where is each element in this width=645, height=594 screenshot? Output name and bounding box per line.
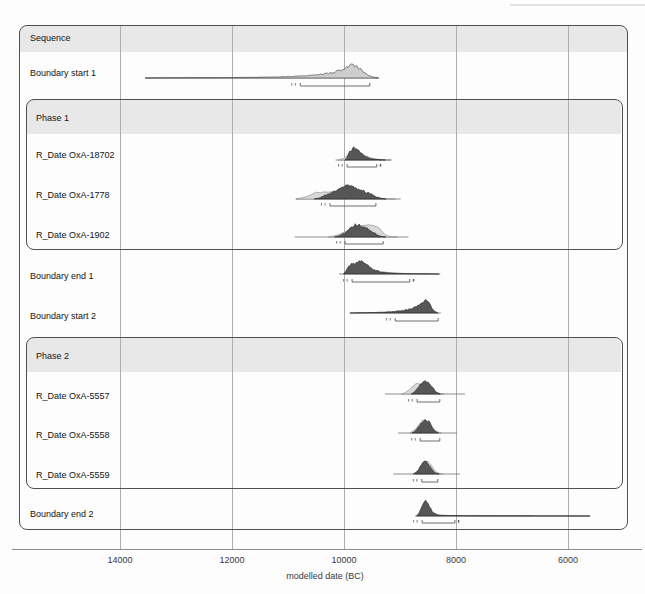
x-tick-label-10000: 10000 xyxy=(314,555,374,565)
phase-2-box xyxy=(26,337,623,489)
row-label-r-date-oxa-1778: R_Date OxA-1778 xyxy=(36,190,110,201)
row-label-r-date-oxa-5558: R_Date OxA-5558 xyxy=(36,430,110,441)
x-tick-label-6000: 6000 xyxy=(538,555,598,565)
x-tick-label-14000: 14000 xyxy=(90,555,150,565)
row-label-r-date-oxa-5559: R_Date OxA-5559 xyxy=(36,470,110,481)
x-axis-title: modelled date (BC) xyxy=(245,571,405,581)
phase-1-box xyxy=(26,99,623,250)
row-label-boundary-end-1: Boundary end 1 xyxy=(30,271,94,282)
row-label-r-date-oxa-18702: R_Date OxA-18702 xyxy=(36,150,115,161)
x-tick-label-12000: 12000 xyxy=(202,555,262,565)
x-tick-label-8000: 8000 xyxy=(426,555,486,565)
row-label-r-date-oxa-1902: R_Date OxA-1902 xyxy=(36,230,110,241)
phase-1-label: Phase 1 xyxy=(36,113,69,124)
phase-2-label: Phase 2 xyxy=(36,351,69,362)
row-label-boundary-start-2: Boundary start 2 xyxy=(30,311,96,322)
sequence-label: Sequence xyxy=(30,33,71,44)
oxcal-sequence-plot: 14000 12000 10000 8000 6000 modelled dat… xyxy=(0,0,645,594)
row-label-boundary-start-1: Boundary start 1 xyxy=(30,68,96,79)
x-axis-line xyxy=(12,549,642,550)
row-label-r-date-oxa-5557: R_Date OxA-5557 xyxy=(36,391,110,402)
row-label-boundary-end-2: Boundary end 2 xyxy=(30,509,94,520)
scan-artifact-line xyxy=(510,4,645,6)
